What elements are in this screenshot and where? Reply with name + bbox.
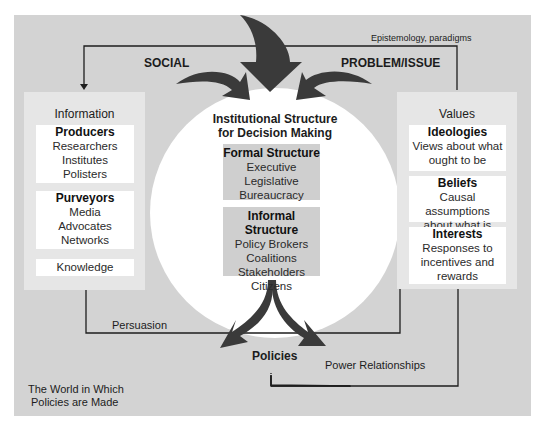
producer-item: Institutes <box>36 153 134 167</box>
world-caption-line1: The World in Which <box>28 383 124 396</box>
producer-item: Researchers <box>36 139 134 153</box>
power-relationships-label: Power Relationships <box>325 359 425 371</box>
ideologies-box: Ideologies Views about what ought to be <box>409 125 506 171</box>
informal-item: Citizens <box>223 279 320 293</box>
informal-item: Coalitions <box>223 251 320 265</box>
purveyors-box: Purveyors Media Advocates Networks <box>36 191 134 249</box>
purveyor-item: Advocates <box>36 219 134 233</box>
interests-text: rewards <box>409 269 506 283</box>
informal-item: Stakeholders <box>223 265 320 279</box>
information-title: Information <box>24 107 145 121</box>
social-label: SOCIAL <box>144 56 189 70</box>
interests-text: Responses to <box>409 241 506 255</box>
problem-issue-label: PROBLEM/ISSUE <box>341 56 440 70</box>
policies-label: Policies <box>252 349 297 363</box>
beliefs-box: Beliefs Causal assumptions about what is <box>409 176 506 222</box>
producers-box: Producers Researchers Institutes Poliste… <box>36 125 134 183</box>
producer-item: Polisters <box>36 167 134 181</box>
formal-item: Executive <box>223 160 320 174</box>
informal-item: Policy Brokers <box>223 237 320 251</box>
knowledge-box: Knowledge <box>36 259 134 276</box>
world-caption-line2: Policies are Made <box>28 396 124 409</box>
formal-item: Legislative <box>223 174 320 188</box>
purveyor-item: Networks <box>36 233 134 247</box>
beliefs-text: Causal assumptions <box>409 190 506 218</box>
ideologies-heading: Ideologies <box>409 125 506 139</box>
purveyors-heading: Purveyors <box>36 191 134 205</box>
institutional-title-line2: for Decision Making <box>205 126 345 140</box>
producers-heading: Producers <box>36 125 134 139</box>
interests-text: incentives and <box>409 255 506 269</box>
formal-structure-heading: Formal Structure <box>223 146 320 160</box>
interests-heading: Interests <box>409 227 506 241</box>
ideologies-text: Views about what <box>409 139 506 153</box>
beliefs-heading: Beliefs <box>409 176 506 190</box>
persuasion-label: Persuasion <box>112 319 167 331</box>
interests-box: Interests Responses to incentives and re… <box>409 227 506 284</box>
informal-structure-box: Informal Structure Policy Brokers Coalit… <box>223 207 320 276</box>
values-title: Values <box>397 107 517 121</box>
epistemology-label: Epistemology, paradigms <box>371 33 471 43</box>
purveyor-item: Media <box>36 205 134 219</box>
institutional-title: Institutional Structure for Decision Mak… <box>205 112 345 140</box>
institutional-title-line1: Institutional Structure <box>205 112 345 126</box>
values-panel: Values Ideologies Views about what ought… <box>397 92 517 289</box>
information-panel: Information Producers Researchers Instit… <box>24 92 145 290</box>
formal-item: Bureaucracy <box>223 188 320 202</box>
informal-structure-heading: Informal Structure <box>223 209 320 237</box>
world-caption: The World in Which Policies are Made <box>28 383 124 409</box>
formal-structure-box: Formal Structure Executive Legislative B… <box>223 144 320 200</box>
ideologies-text: ought to be <box>409 153 506 167</box>
